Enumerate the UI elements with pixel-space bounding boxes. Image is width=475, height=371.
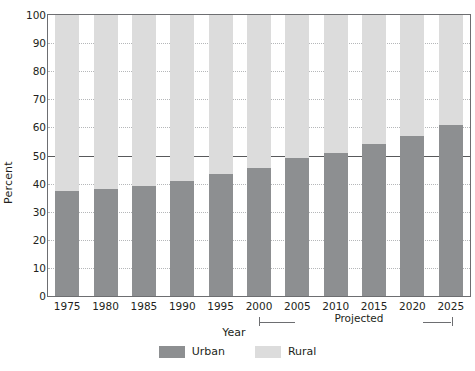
bar-segment-urban-2015 (362, 144, 386, 296)
y-axis-title-text: Percent (2, 114, 15, 204)
y-tick-label-30: 30 (16, 206, 46, 217)
y-tick-label-50: 50 (16, 150, 46, 161)
bar-segment-urban-1990 (170, 181, 194, 296)
y-tick-label-0: 0 (16, 291, 46, 302)
legend-item-urban: Urban (159, 345, 225, 358)
bar-segment-urban-1975 (55, 191, 79, 296)
bar-2010 (324, 15, 348, 296)
bar-1975 (55, 15, 79, 296)
plot-area (47, 14, 471, 297)
bar-segment-rural-1985 (132, 15, 156, 186)
y-tick-label-80: 80 (16, 66, 46, 77)
bar-segment-rural-1975 (55, 15, 79, 191)
bar-segment-urban-1995 (209, 174, 233, 296)
y-tick-label-70: 70 (16, 94, 46, 105)
bar-segment-urban-2025 (439, 125, 463, 296)
bar-2025 (439, 15, 463, 296)
bar-segment-rural-1980 (94, 15, 118, 189)
x-axis-title-text: Year (222, 326, 245, 339)
legend-item-rural: Rural (255, 345, 316, 358)
chart-legend: Urban Rural (0, 345, 475, 358)
bar-1990 (170, 15, 194, 296)
y-tick-label-40: 40 (16, 178, 46, 189)
bar-segment-rural-2010 (324, 15, 348, 153)
y-tick-label-90: 90 (16, 38, 46, 49)
legend-swatch-urban (159, 346, 185, 358)
bar-segment-urban-1985 (132, 186, 156, 296)
legend-label-urban: Urban (192, 345, 225, 358)
bar-segment-rural-2015 (362, 15, 386, 144)
bar-segment-urban-2005 (285, 158, 309, 296)
bar-2015 (362, 15, 386, 296)
bar-segment-rural-1995 (209, 15, 233, 174)
bar-segment-urban-2000 (247, 168, 271, 296)
bar-1980 (94, 15, 118, 296)
y-axis-title: Percent (2, 26, 15, 116)
x-tick-label-2025: 2025 (428, 300, 474, 312)
bar-segment-urban-2020 (400, 136, 424, 296)
bar-segment-rural-2005 (285, 15, 309, 158)
bar-1985 (132, 15, 156, 296)
bar-segment-rural-2020 (400, 15, 424, 136)
y-tick-label-10: 10 (16, 263, 46, 274)
y-tick-label-20: 20 (16, 235, 46, 246)
bar-segment-rural-2000 (247, 15, 271, 168)
legend-swatch-rural (255, 346, 281, 358)
x-axis-title: Year (174, 326, 294, 339)
plot-inner (48, 15, 470, 296)
bar-1995 (209, 15, 233, 296)
bar-segment-rural-1990 (170, 15, 194, 181)
bar-2005 (285, 15, 309, 296)
legend-label-rural: Rural (288, 345, 316, 358)
bar-segment-urban-2010 (324, 153, 348, 296)
bar-segment-urban-1980 (94, 189, 118, 296)
y-tick-label-60: 60 (16, 122, 46, 133)
projected-bracket-label: Projected (295, 312, 423, 324)
chart-figure: Percent 0102030405060708090100 197519801… (0, 0, 475, 371)
bar-segment-rural-2025 (439, 15, 463, 125)
bar-2000 (247, 15, 271, 296)
y-tick-label-100: 100 (16, 10, 46, 21)
bar-2020 (400, 15, 424, 296)
